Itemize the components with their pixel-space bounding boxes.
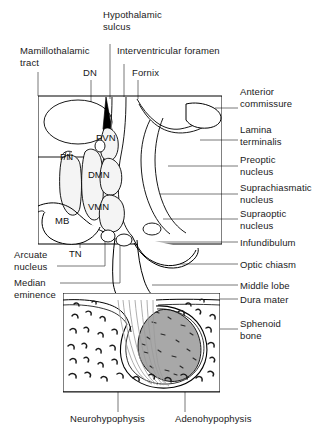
- hypothalamus-pituitary-figure: Hypothalamic sulcus Mamillothalamic trac…: [0, 0, 332, 433]
- label-dn: DN: [83, 67, 97, 79]
- label-arcuate-nucleus: Arcuate nucleus: [14, 249, 47, 272]
- brain-section: [38, 96, 222, 299]
- label-mamillothalamic-tract: Mamillothalamic tract: [20, 45, 90, 68]
- label-preoptic-nucleus: Preoptic nucleus: [240, 154, 276, 177]
- label-mb: MB: [55, 216, 69, 226]
- leader-lines-bottom: [118, 392, 185, 412]
- mamillary-left-edge: [38, 211, 45, 213]
- label-anterior-commissure: Anterior commissure: [240, 86, 292, 109]
- tuberal-nucleus-shape: [116, 234, 132, 246]
- label-suprachiasmatic-nucleus: Suprachiasmatic nucleus: [240, 182, 312, 205]
- label-dura-mater: Dura mater: [240, 294, 289, 306]
- label-middle-lobe: Middle lobe: [240, 280, 290, 292]
- preoptic-nucleus-shape: [60, 155, 82, 215]
- anterior-commissure-shape: [186, 103, 221, 128]
- label-pvn: PVN: [96, 133, 116, 143]
- supraoptic-nucleus-shape: [143, 223, 161, 235]
- label-sphenoid-bone: Sphenoid bone: [240, 318, 281, 341]
- label-interventricular-foramen: Interventricular foramen: [117, 45, 220, 57]
- optic-chiasm-upper: [132, 236, 196, 266]
- label-dmn: DMN: [88, 170, 110, 180]
- label-pn: PN: [60, 152, 73, 162]
- label-optic-chiasm: Optic chiasm: [240, 259, 296, 271]
- label-fornix: Fornix: [132, 67, 159, 79]
- label-vmn: VMN: [88, 202, 109, 212]
- lamina-terminalis-inner: [155, 118, 186, 233]
- label-infundibulum: Infundibulum: [240, 237, 296, 249]
- infundibulum-left: [113, 238, 119, 299]
- label-median-eminence: Median eminence: [14, 277, 56, 300]
- lamina-terminalis-curve: [141, 120, 170, 234]
- label-neurohypophysis: Neurohypophysis: [70, 413, 145, 425]
- sphenoid-bone-section: [63, 293, 220, 392]
- label-hypothalamic-sulcus: Hypothalamic sulcus: [103, 9, 162, 32]
- label-supraoptic-nucleus: Supraoptic nucleus: [240, 208, 286, 231]
- label-adenohypophysis: Adenohypophysis: [175, 413, 252, 425]
- label-tn: TN: [69, 249, 82, 259]
- label-lamina-terminalis: Lamina terminalis: [240, 124, 282, 147]
